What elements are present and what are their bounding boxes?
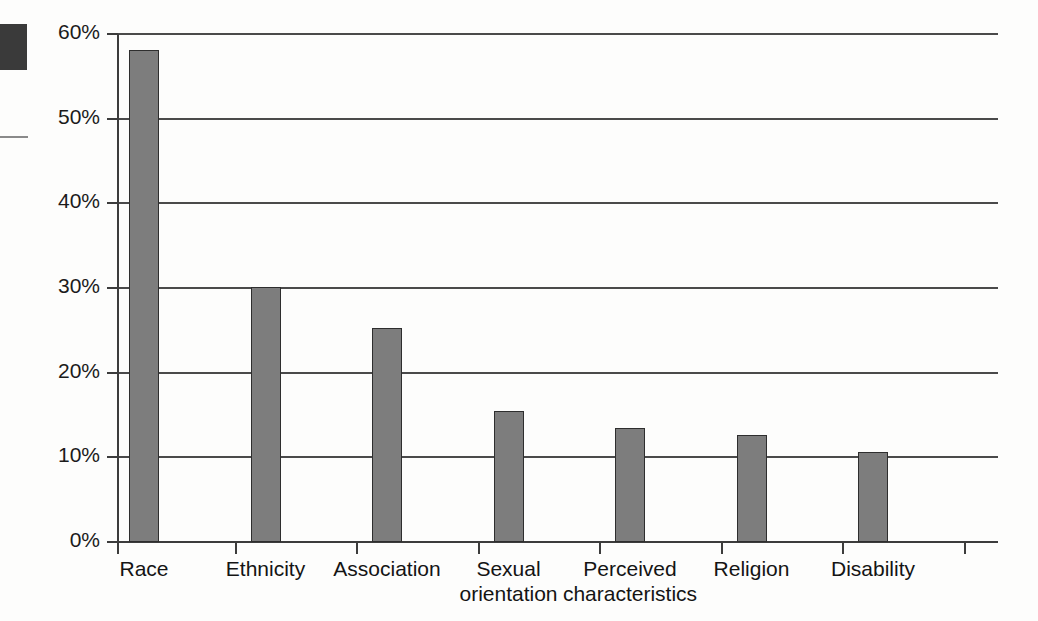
y-axis-label: 0% <box>0 528 100 552</box>
y-tick-50 <box>107 118 118 120</box>
y-axis-label: 60% <box>0 20 100 44</box>
bar <box>737 435 767 542</box>
x-tick <box>478 542 480 554</box>
gridline-20 <box>117 372 998 374</box>
gridline-40 <box>117 202 998 204</box>
x-tick <box>964 542 966 554</box>
x-tick <box>235 542 237 554</box>
y-axis-label: 40% <box>0 189 100 213</box>
y-tick-10 <box>107 456 118 458</box>
chart-page: 0%10%20%30%40%50%60% RaceEthnicityAssoci… <box>0 0 1038 621</box>
x-tick <box>599 542 601 554</box>
bar <box>494 411 524 542</box>
x-axis-label: Disability <box>788 556 958 581</box>
bar <box>129 50 159 542</box>
y-tick-30 <box>107 287 118 289</box>
y-axis-label: 10% <box>0 443 100 467</box>
y-tick-20 <box>107 372 118 374</box>
x-tick <box>721 542 723 554</box>
bar <box>615 428 645 542</box>
y-axis-label: 30% <box>0 274 100 298</box>
gridline-60 <box>117 33 998 35</box>
x-tick <box>842 542 844 554</box>
gridline-50 <box>117 118 998 120</box>
bar <box>372 328 402 542</box>
y-tick-40 <box>107 202 118 204</box>
gridline-30 <box>117 287 998 289</box>
y-axis-label: 20% <box>0 359 100 383</box>
bar <box>251 287 281 542</box>
y-axis-label: 50% <box>0 105 100 129</box>
bar-chart: 0%10%20%30%40%50%60% RaceEthnicityAssoci… <box>0 0 1038 621</box>
y-axis-line <box>117 34 119 544</box>
y-tick-60 <box>107 33 118 35</box>
x-tick-origin <box>117 542 119 554</box>
x-tick <box>356 542 358 554</box>
bar <box>858 452 888 542</box>
